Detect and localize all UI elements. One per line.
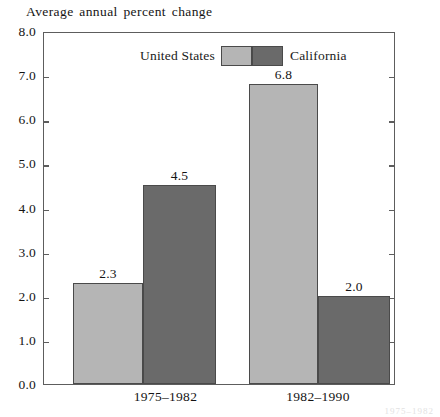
y-axis-tick-mark [43, 77, 49, 78]
bar [73, 283, 143, 384]
y-axis-tick-label: 0.0 [19, 377, 36, 393]
legend-swatch-california [252, 46, 283, 66]
chart-legend: United States California [140, 46, 347, 66]
legend-swatch-united-states [221, 46, 252, 66]
legend-label-california: California [290, 48, 347, 64]
y-axis-tick-label: 5.0 [19, 156, 36, 172]
y-axis-tick-label: 7.0 [19, 68, 36, 84]
bar-value-label: 2.0 [345, 279, 362, 295]
x-axis-category-label: 1982–1990 [286, 389, 349, 405]
y-axis-tick-mark [389, 254, 395, 255]
y-axis-tick-label: 8.0 [19, 24, 36, 40]
bar-value-label: 4.5 [171, 168, 188, 184]
chart-title: Average annual percent change [26, 4, 212, 20]
page-bleed-artifact: 1975–1982 [385, 406, 435, 416]
x-axis-category-label: 1975–1982 [134, 389, 197, 405]
y-axis-tick-mark [43, 342, 49, 343]
bar [143, 185, 216, 384]
y-axis-tick-mark [389, 77, 395, 78]
y-axis-tick-mark [43, 298, 49, 299]
bar [318, 296, 390, 384]
bar-chart-figure: Average annual percent change 0.01.02.03… [0, 0, 440, 417]
y-axis-tick-labels: 0.01.02.03.04.05.06.07.08.0 [0, 32, 43, 385]
y-axis-tick-label: 1.0 [19, 333, 36, 349]
y-axis-tick-mark [389, 165, 395, 166]
bar-value-label: 6.8 [275, 67, 292, 83]
legend-label-united-states: United States [140, 48, 215, 64]
y-axis-tick-label: 4.0 [19, 201, 36, 217]
y-axis-tick-mark [389, 210, 395, 211]
y-axis-tick-mark [43, 210, 49, 211]
y-axis-tick-label: 2.0 [19, 289, 36, 305]
y-axis-tick-label: 3.0 [19, 245, 36, 261]
y-axis-tick-mark [43, 254, 49, 255]
y-axis-tick-label: 6.0 [19, 112, 36, 128]
y-axis-tick-mark [43, 165, 49, 166]
y-axis-tick-mark [389, 121, 395, 122]
x-axis-category-labels: 1975–19821982–1990 [43, 389, 395, 413]
y-axis-tick-mark [43, 121, 49, 122]
bar-value-label: 2.3 [99, 266, 116, 282]
plot-area: 2.34.56.82.0 [43, 32, 395, 385]
bar [249, 84, 318, 384]
